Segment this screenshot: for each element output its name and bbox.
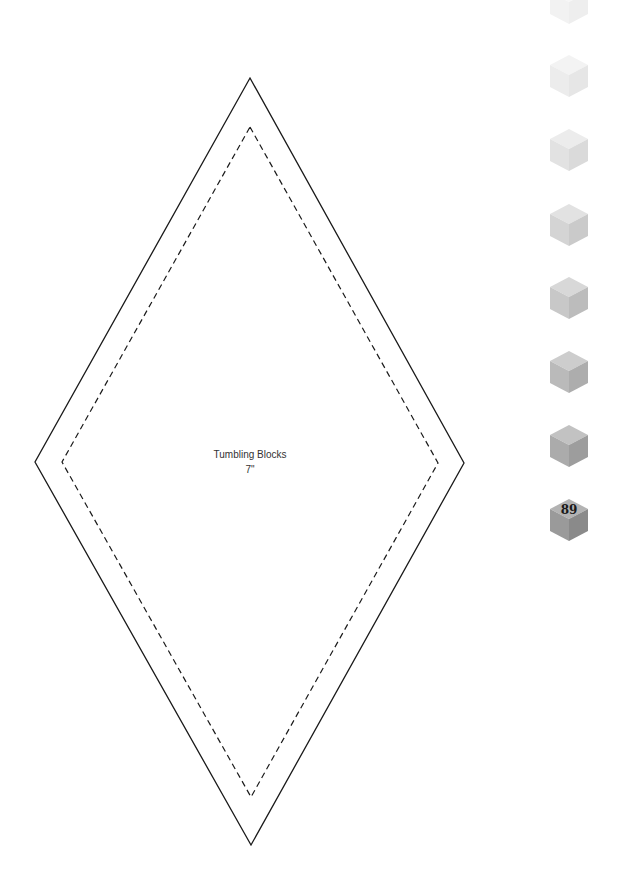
template-name: Tumbling Blocks <box>150 448 350 461</box>
page-number-cube-icon: 89 <box>550 499 588 541</box>
side-tab-cubes: 89 <box>550 0 588 541</box>
cube-tab-icon <box>550 204 588 246</box>
cut-line-outer-diamond <box>35 78 464 845</box>
template-size: 7" <box>150 463 350 476</box>
tumbling-blocks-template: 89 <box>0 0 617 890</box>
cube-tab-icon <box>550 55 588 97</box>
cube-right-face <box>569 0 588 24</box>
cube-tab-icon <box>550 0 588 24</box>
cube-tab-icon <box>550 277 588 319</box>
cube-left-face <box>550 0 569 24</box>
seam-line-inner-diamond <box>62 127 438 797</box>
page-number: 89 <box>561 503 578 517</box>
cube-tab-icon <box>550 351 588 393</box>
cube-tab-icon <box>550 425 588 467</box>
cube-tab-icon <box>550 129 588 171</box>
